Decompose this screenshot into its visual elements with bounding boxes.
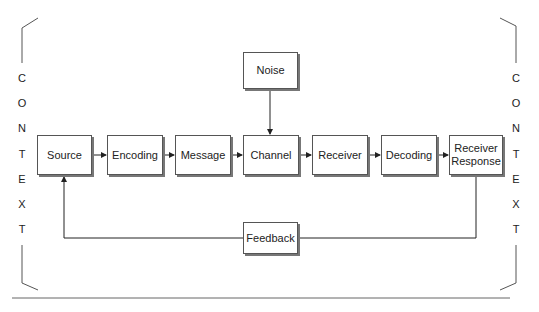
context-letter: X (510, 198, 522, 210)
context-letter: C (16, 72, 28, 84)
context-letter: E (16, 173, 28, 185)
node-source: Source (37, 135, 92, 175)
context-letter: T (510, 148, 522, 160)
context-letter: T (16, 223, 28, 235)
node-feedback: Feedback (243, 222, 298, 254)
node-encoding: Encoding (107, 135, 163, 175)
context-letter: N (510, 122, 522, 134)
context-letter: X (16, 198, 28, 210)
node-message: Message (175, 135, 231, 175)
node-label-line: Receiver (454, 142, 497, 155)
context-letter: T (510, 223, 522, 235)
context-letter: N (16, 122, 28, 134)
context-letter: O (510, 97, 522, 109)
node-noise: Noise (243, 52, 298, 89)
context-letter: E (510, 173, 522, 185)
node-receiver-response: Receiver Response (449, 135, 503, 175)
node-channel: Channel (243, 135, 299, 175)
context-letter: C (510, 72, 522, 84)
node-label-line: Response (451, 155, 501, 168)
context-letter: T (16, 148, 28, 160)
node-receiver: Receiver (312, 135, 368, 175)
context-letter: O (16, 97, 28, 109)
node-decoding: Decoding (381, 135, 437, 175)
